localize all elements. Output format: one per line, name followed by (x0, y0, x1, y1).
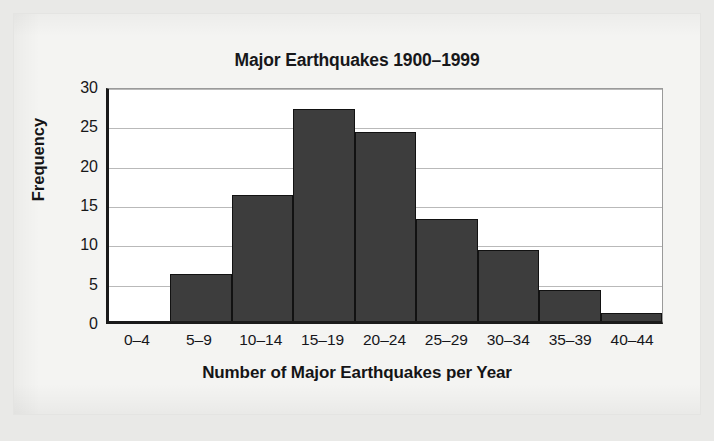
x-axis-tick-labels: 0–45–910–1415–1920–2425–2930–3435–3940–4… (106, 331, 663, 349)
x-tick-label: 30–34 (477, 331, 539, 349)
bar-slot (232, 89, 293, 321)
y-tick-label: 5 (58, 276, 98, 294)
x-tick-label: 40–44 (601, 331, 663, 349)
x-tick-label: 15–19 (292, 331, 354, 349)
bar-25-29 (416, 219, 477, 321)
bar-series (109, 89, 662, 321)
x-tick-label: 25–29 (415, 331, 477, 349)
y-tick-label: 15 (58, 197, 98, 215)
y-axis-tick-labels: 051015202530 (52, 88, 98, 324)
chart-title: Major Earthquakes 1900–1999 (0, 50, 714, 71)
bar-slot (109, 89, 170, 321)
x-axis-title: Number of Major Earthquakes per Year (0, 363, 714, 383)
x-tick-label: 35–39 (539, 331, 601, 349)
bar-slot (293, 89, 354, 321)
x-tick-label: 10–14 (230, 331, 292, 349)
bar-5-9 (170, 274, 231, 321)
page-background: Major Earthquakes 1900–1999 Frequency 05… (0, 0, 714, 441)
y-axis-title: Frequency (29, 60, 48, 260)
bar-10-14 (232, 195, 293, 321)
y-tick-label: 20 (58, 158, 98, 176)
plot-area (106, 88, 663, 324)
bar-slot (478, 89, 539, 321)
bar-slot (170, 89, 231, 321)
y-tick-label: 25 (58, 118, 98, 136)
bar-30-34 (478, 250, 539, 321)
bar-slot (539, 89, 600, 321)
y-tick-label: 30 (58, 79, 98, 97)
y-tick-label: 0 (58, 315, 98, 333)
y-tick-label: 10 (58, 236, 98, 254)
bar-40-44 (601, 313, 662, 321)
bar-15-19 (293, 109, 354, 321)
bar-slot (355, 89, 416, 321)
bar-35-39 (539, 290, 600, 321)
bar-slot (601, 89, 662, 321)
x-tick-label: 0–4 (106, 331, 168, 349)
bar-20-24 (355, 132, 416, 321)
x-tick-label: 5–9 (168, 331, 230, 349)
x-tick-label: 20–24 (354, 331, 416, 349)
bar-slot (416, 89, 477, 321)
